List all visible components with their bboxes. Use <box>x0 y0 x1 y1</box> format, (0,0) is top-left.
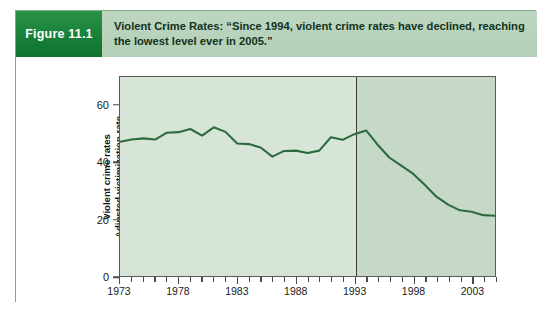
x-tick-mark-1993 <box>355 277 356 284</box>
x-tick-mark-2000 <box>437 277 438 282</box>
x-tick-label-1998: 1998 <box>402 285 425 297</box>
x-axis-tick-labels: 1973197819831988199319982003 <box>119 285 496 301</box>
x-tick-mark-2001 <box>449 277 450 282</box>
chart-area: Violent crime ratesAdjusted victimizatio… <box>16 57 537 302</box>
y-axis-tick-marks <box>112 76 119 277</box>
x-tick-mark-1998 <box>414 277 415 284</box>
x-tick-label-1973: 1973 <box>107 285 130 297</box>
x-tick-label-1978: 1978 <box>166 285 189 297</box>
x-tick-mark-1982 <box>225 277 226 282</box>
x-tick-label-1983: 1983 <box>225 285 248 297</box>
y-tick-label-0: 0 <box>83 271 109 283</box>
x-tick-mark-1997 <box>402 277 403 282</box>
x-tick-mark-1988 <box>296 277 297 284</box>
x-tick-mark-1992 <box>343 277 344 282</box>
y-tick-label-60: 60 <box>83 99 109 111</box>
x-tick-mark-1990 <box>319 277 320 282</box>
x-tick-mark-2003 <box>472 277 473 284</box>
x-tick-mark-1989 <box>308 277 309 282</box>
x-tick-mark-1996 <box>390 277 391 282</box>
x-tick-label-2003: 2003 <box>461 285 484 297</box>
x-tick-mark-1973 <box>119 277 120 284</box>
x-tick-mark-2002 <box>461 277 462 282</box>
x-tick-mark-1983 <box>237 277 238 284</box>
figure-header: Figure 11.1 Violent Crime Rates: “Since … <box>16 11 537 57</box>
x-tick-mark-1977 <box>166 277 167 282</box>
x-tick-mark-1974 <box>131 277 132 282</box>
x-tick-mark-2004 <box>484 277 485 282</box>
plot-frame <box>119 76 496 277</box>
x-tick-mark-1999 <box>425 277 426 282</box>
figure-caption-banner: Violent Crime Rates: “Since 1994, violen… <box>102 11 537 57</box>
y-tick-label-40: 40 <box>83 156 109 168</box>
x-tick-mark-1984 <box>249 277 250 282</box>
x-tick-mark-1979 <box>190 277 191 282</box>
figure-container: Figure 11.1 Violent Crime Rates: “Since … <box>15 10 536 302</box>
x-tick-mark-1976 <box>154 277 155 282</box>
x-tick-mark-1991 <box>331 277 332 282</box>
figure-number-badge: Figure 11.1 <box>16 11 102 57</box>
violent-crime-rate-line-chart <box>120 77 495 276</box>
x-tick-mark-1986 <box>272 277 273 282</box>
y-tick-label-20: 20 <box>83 214 109 226</box>
x-tick-mark-1985 <box>260 277 261 282</box>
x-tick-mark-1994 <box>366 277 367 282</box>
x-tick-label-1988: 1988 <box>284 285 307 297</box>
x-axis-tick-marks <box>119 277 496 284</box>
x-tick-mark-1978 <box>178 277 179 284</box>
x-tick-mark-1987 <box>284 277 285 282</box>
figure-caption-text: Violent Crime Rates: “Since 1994, violen… <box>114 19 527 49</box>
x-tick-mark-1981 <box>213 277 214 282</box>
violent-crime-rate-series <box>120 127 495 215</box>
x-tick-mark-1975 <box>143 277 144 282</box>
x-tick-mark-1995 <box>378 277 379 282</box>
x-tick-label-1993: 1993 <box>343 285 366 297</box>
x-tick-mark-2005 <box>496 277 497 282</box>
figure-number-label: Figure 11.1 <box>25 27 93 41</box>
y-axis-tick-labels: 0204060 <box>79 76 109 277</box>
x-tick-mark-1980 <box>201 277 202 282</box>
